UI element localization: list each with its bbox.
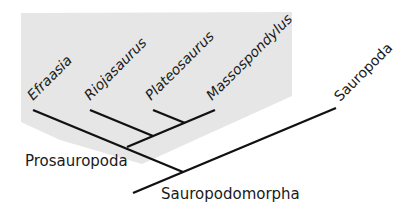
clade-label-sauropodomorpha: Sauropodomorpha — [161, 185, 300, 203]
clade-label-prosauropoda: Prosauropoda — [25, 152, 128, 170]
cladogram: Efraasia Riojasaurus Plateosaurus Massos… — [0, 0, 419, 216]
taxon-label-sauropoda: Sauropoda — [331, 40, 396, 105]
